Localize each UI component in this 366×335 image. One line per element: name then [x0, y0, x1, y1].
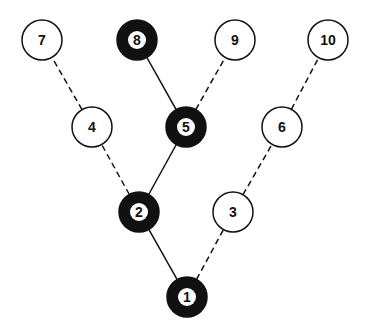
node-label: 1: [183, 289, 191, 305]
tree-diagram-svg: 12345678910: [0, 0, 366, 335]
node-9: 9: [215, 20, 255, 60]
node-4: 4: [72, 107, 112, 147]
node-6: 6: [262, 107, 302, 147]
node-3: 3: [213, 192, 253, 232]
node-8: 8: [117, 20, 157, 60]
tree-diagram: 12345678910: [0, 0, 366, 335]
edge-1-2: [149, 229, 177, 279]
node-label: 5: [182, 119, 190, 135]
node-label: 8: [133, 32, 141, 48]
node-1: 1: [167, 277, 207, 317]
edge-1-3: [197, 230, 224, 280]
node-label: 10: [320, 32, 336, 48]
node-label: 9: [231, 32, 239, 48]
node-label: 4: [88, 119, 96, 135]
node-7: 7: [22, 20, 62, 60]
edge-4-7: [52, 57, 82, 109]
edge-5-9: [196, 57, 225, 109]
node-label: 2: [135, 204, 143, 220]
node-label: 6: [278, 119, 286, 135]
edge-2-4: [102, 145, 130, 195]
node-10: 10: [308, 20, 348, 60]
nodes-layer: 12345678910: [22, 20, 348, 317]
edge-2-5: [149, 145, 177, 195]
node-5: 5: [166, 107, 206, 147]
edge-5-8: [147, 57, 176, 109]
node-label: 3: [229, 204, 237, 220]
edge-3-6: [243, 144, 272, 194]
edges-layer: [52, 57, 319, 279]
edge-6-10: [291, 58, 318, 110]
node-label: 7: [38, 32, 46, 48]
node-2: 2: [119, 192, 159, 232]
